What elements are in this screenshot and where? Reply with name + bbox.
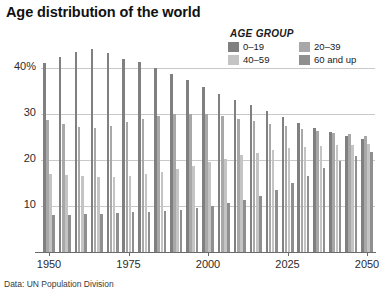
x-axis-labels: 19501975200020252050 [0,0,385,297]
x-tick-label: 1975 [116,258,140,270]
plot-area: 10203040% 19501975200020252050 [0,0,385,297]
x-tick-mark [49,252,50,256]
x-tick-mark [367,252,368,256]
x-tick-label: 1950 [37,258,61,270]
chart-page: Age distribution of the world AGE GROUP … [0,0,385,297]
x-tick-mark [208,252,209,256]
x-tick-label: 2025 [275,258,299,270]
x-tick-mark [288,252,289,256]
x-tick-label: 2000 [196,258,220,270]
x-tick-mark [129,252,130,256]
source-note: Data: UN Population Division [4,279,114,289]
x-tick-label: 2050 [355,258,379,270]
